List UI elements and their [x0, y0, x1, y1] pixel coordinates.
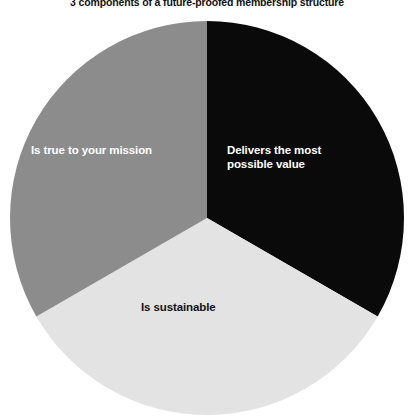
- pie-label-delivers-value: Delivers the most possible value: [227, 143, 357, 171]
- pie-chart-svg: [0, 0, 414, 418]
- pie-chart: Is true to your mission Delivers the mos…: [0, 0, 414, 418]
- pie-label-is-true-to-mission: Is true to your mission: [31, 143, 181, 157]
- pie-label-is-sustainable: Is sustainable: [141, 300, 291, 314]
- chart-page: 3 components of a future-proofed members…: [0, 0, 414, 418]
